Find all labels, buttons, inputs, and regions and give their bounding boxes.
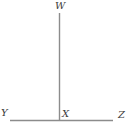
geometry-figure: W X Y Z — [0, 0, 131, 127]
point-label-x: X — [62, 109, 69, 119]
point-label-w: W — [55, 1, 65, 11]
point-label-z: Z — [118, 110, 125, 120]
point-label-y: Y — [1, 108, 8, 118]
